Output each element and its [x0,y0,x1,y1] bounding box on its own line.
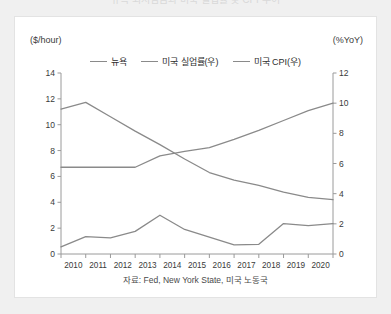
svg-text:4: 4 [339,189,344,199]
svg-text:8: 8 [339,128,344,138]
svg-text:2015: 2015 [188,261,207,270]
chart-card: ($/hour) (%YoY) 뉴욕 미국 실업률(우) 미국 CPI(우) 0… [14,16,377,298]
svg-text:2014: 2014 [163,261,182,270]
svg-text:4: 4 [50,197,55,207]
svg-text:10: 10 [46,120,56,130]
chart-canvas: 02468101214 024681012 201020112012201320… [15,17,376,297]
svg-text:2018: 2018 [262,261,281,270]
right-axis: 024681012 [333,68,349,259]
svg-text:8: 8 [50,146,55,156]
svg-text:2016: 2016 [213,261,232,270]
chart-plot-area: ($/hour) (%YoY) 뉴욕 미국 실업률(우) 미국 CPI(우) 0… [15,17,376,297]
left-axis: 02468101214 [46,68,61,259]
svg-text:2011: 2011 [89,261,107,270]
svg-text:14: 14 [46,68,56,78]
svg-text:2013: 2013 [138,261,157,270]
svg-text:2012: 2012 [114,261,133,270]
svg-text:2019: 2019 [287,261,306,270]
page-background: 뉴욕 최저임금과 미국 실업률 및 CPI 추이 ($/hour) (%YoY)… [0,0,391,314]
svg-text:2020: 2020 [312,261,331,270]
svg-text:10: 10 [339,98,349,108]
svg-text:2010: 2010 [64,261,83,270]
series-group [61,102,333,246]
svg-text:6: 6 [50,171,55,181]
page-title: 뉴욕 최저임금과 미국 실업률 및 CPI 추이 [0,0,391,6]
svg-text:12: 12 [46,94,56,104]
svg-text:0: 0 [339,249,344,259]
svg-text:12: 12 [339,68,349,78]
svg-text:6: 6 [339,159,344,169]
source-note: 자료: Fed, New York State, 미국 노동국 [15,273,376,285]
svg-text:2017: 2017 [237,261,256,270]
svg-text:2: 2 [339,219,344,229]
svg-text:0: 0 [50,249,55,259]
x-axis: 2010201120122013201420152016201720182019… [61,254,333,270]
svg-text:2: 2 [50,223,55,233]
